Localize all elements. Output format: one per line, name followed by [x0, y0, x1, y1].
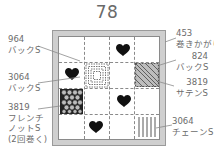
label-3064-chain: 3064 チェーンS	[172, 116, 213, 137]
stitch-name: 巻きかがり	[176, 39, 214, 50]
label-824-backstitch: 824 バックS	[176, 51, 208, 72]
stitch-name: バックS	[176, 62, 208, 73]
label-453-whipstitch: 453 巻きかがり	[176, 28, 214, 49]
thread-number: 3064	[8, 72, 40, 83]
stitch-name: フレンチ	[8, 113, 47, 124]
thread-number: 824	[176, 51, 208, 62]
stitch-name: バックS	[8, 45, 40, 56]
stitch-name: サテンS	[172, 88, 208, 99]
stitch-name: バックS	[8, 83, 40, 94]
stitch-name: ノットS	[8, 123, 47, 134]
thread-number: 453	[176, 28, 214, 39]
label-964-backstitch: 964 バックS	[8, 34, 40, 55]
label-3819-french-knot: 3819 フレンチ ノットS (2回巻く)	[8, 102, 47, 144]
stitch-name: チェーンS	[172, 127, 213, 138]
thread-number: 964	[8, 34, 40, 45]
label-3064-backstitch: 3064 バックS	[8, 72, 40, 93]
label-3819-satin: 3819 サテンS	[172, 77, 208, 98]
thread-number: 3819	[8, 102, 47, 113]
thread-number: 3064	[172, 116, 213, 127]
stitch-note: (2回巻く)	[8, 134, 47, 145]
thread-number: 3819	[172, 77, 208, 88]
